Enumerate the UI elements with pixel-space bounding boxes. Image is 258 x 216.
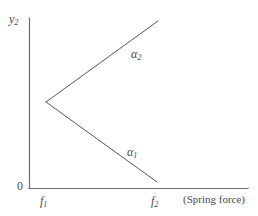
x-tick-label-f2-subscript: 2 xyxy=(154,200,158,209)
y-axis-label-subscript: 2 xyxy=(14,18,18,27)
plot-area xyxy=(0,0,258,216)
curve-label-alpha2-subscript: 2 xyxy=(137,53,141,62)
data-lines-group xyxy=(46,21,158,182)
x-axis-label: (Spring force) xyxy=(183,194,245,205)
origin-label: 0 xyxy=(17,180,23,192)
curve-label-alpha2: α2 xyxy=(131,48,141,62)
x-tick-label-f2: f2 xyxy=(151,195,158,209)
spring-force-figure: y2 0 f1 f2 (Spring force) α2 α1 xyxy=(0,0,258,216)
x-tick-label-f1-subscript: 1 xyxy=(43,200,47,209)
axes-group xyxy=(29,18,248,189)
x-tick-label-f1: f1 xyxy=(40,195,47,209)
alpha1-line xyxy=(46,102,157,182)
curve-label-alpha1: α1 xyxy=(127,146,137,160)
curve-label-alpha1-subscript: 1 xyxy=(133,151,137,160)
y-axis-label: y2 xyxy=(9,13,18,27)
